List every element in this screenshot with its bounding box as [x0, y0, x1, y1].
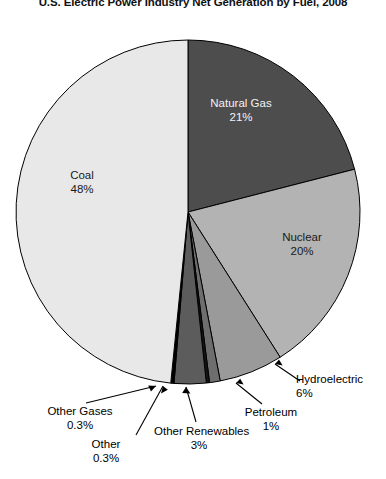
slice-label-coal-name: Coal: [37, 168, 127, 182]
leader-arrow-other-gases: [148, 385, 156, 391]
slice-label-other-gases-value: 0.3%: [28, 418, 132, 432]
slice-label-other-gases-name: Other Gases: [28, 404, 132, 418]
slice-label-other-renewables-value: 3%: [154, 438, 244, 452]
pie-slice-group: Natural Gas 21%Nuclear 20%Hydroelectric …: [16, 40, 360, 384]
slice-label-other-renewables-name: Other Renewables: [154, 424, 244, 438]
slice-label-natural-gas-value: 21%: [186, 110, 296, 124]
slice-label-nuclear-name: Nuclear: [252, 230, 352, 244]
slice-label-other: Other 0.3%: [78, 437, 134, 465]
pie-slice-coal[interactable]: Coal 48%: [16, 40, 188, 383]
leader-line-petroleum: [236, 383, 262, 404]
slice-label-hydroelectric-name: Hydroelectric: [296, 372, 384, 386]
leader-line-other-gases: [86, 386, 156, 403]
slice-label-other-value: 0.3%: [78, 451, 134, 465]
slice-label-nuclear: Nuclear 20%: [252, 230, 352, 258]
slice-label-coal: Coal 48%: [37, 168, 127, 196]
slice-label-other-name: Other: [78, 437, 134, 451]
slice-label-natural-gas-name: Natural Gas: [186, 96, 296, 110]
slice-label-coal-value: 48%: [37, 182, 127, 196]
leader-arrow-other-renewables: [182, 387, 190, 393]
slice-label-hydroelectric-value: 6%: [296, 386, 384, 400]
slice-label-natural-gas: Natural Gas 21%: [186, 96, 296, 124]
slice-label-petroleum-name: Petroleum: [231, 405, 311, 419]
chart-page: U.S. Electric Power Industry Net Generat…: [0, 0, 386, 479]
slice-label-other-gases: Other Gases 0.3%: [28, 404, 132, 432]
slice-label-nuclear-value: 20%: [252, 244, 352, 258]
slice-label-other-renewables: Other Renewables 3%: [154, 424, 244, 452]
slice-label-hydroelectric: Hydroelectric 6%: [296, 372, 384, 400]
